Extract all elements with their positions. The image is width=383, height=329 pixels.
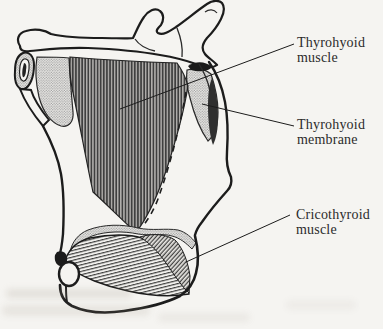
- label-text-line: membrane: [297, 133, 365, 148]
- label-text-line: Cricothyroid: [296, 208, 370, 223]
- anterior-border: [43, 126, 64, 257]
- thyrohyoid-muscle-shape: [70, 57, 188, 229]
- label-text-line: Thyrohyoid: [297, 118, 365, 133]
- label-text-line: muscle: [296, 223, 370, 238]
- label-thyrohyoid-membrane: Thyrohyoid membrane: [297, 118, 365, 147]
- label-thyrohyoid-muscle: Thyrohyoid muscle: [297, 36, 365, 65]
- figure-larynx-anatomy: Thyrohyoid muscle Thyrohyoid membrane Cr…: [0, 0, 383, 329]
- label-text-line: muscle: [297, 51, 365, 66]
- label-text-line: Thyrohyoid: [297, 36, 365, 51]
- cricoid-front-line: [66, 286, 67, 302]
- cricothyroid-joint-knob: [59, 262, 79, 286]
- label-cricothyroid-muscle: Cricothyroid muscle: [296, 208, 370, 237]
